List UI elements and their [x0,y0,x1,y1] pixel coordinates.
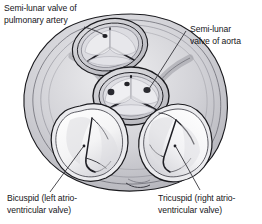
label-tricuspid-right-atrioventricular-valve: Tricuspid (right atrio- ventricular valv… [158,193,235,216]
label-semi-lunar-valve-of-aorta: Semi-lunar valve of aorta [190,24,241,47]
label-bicuspid-left-atrioventricular-valve: Bicuspid (left atrio- ventricular valve) [7,193,77,216]
bicuspid-valve [51,104,128,182]
tricuspid-valve [139,104,212,182]
heart-valves-figure: Semi-lunar valve of pulmonary artery Sem… [0,0,262,224]
label-semi-lunar-valve-of-pulmonary-artery: Semi-lunar valve of pulmonary artery [4,3,77,26]
